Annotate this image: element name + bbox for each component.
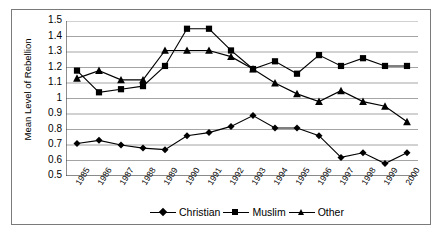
x-tick-label: 1990 — [184, 166, 201, 187]
chart-legend: ChristianMuslimOther — [150, 204, 347, 220]
legend-item-other: Other — [289, 206, 347, 218]
legend-marker-square-icon — [223, 206, 249, 218]
x-tick-label: 1991 — [206, 166, 223, 187]
legend-item-muslim: Muslim — [223, 206, 288, 218]
legend-item-christian: Christian — [150, 206, 223, 218]
x-tick-label: 1987 — [118, 166, 135, 187]
x-tick-label: 1996 — [316, 166, 333, 187]
x-tick-label: 1995 — [294, 166, 311, 187]
legend-label: Christian — [176, 206, 223, 218]
x-tick-label: 1988 — [140, 166, 157, 187]
x-tick-label: 2000 — [404, 166, 421, 187]
legend-label: Other — [315, 206, 347, 218]
x-tick-label: 1986 — [96, 166, 113, 187]
legend-marker-diamond-icon — [150, 206, 176, 218]
x-tick-label: 1994 — [272, 166, 289, 187]
chart-figure: Mean Level of Rebellion 1.51.41.31.21.11… — [0, 0, 446, 243]
x-tick-label: 1989 — [162, 166, 179, 187]
legend-label: Muslim — [249, 206, 288, 218]
x-tick-label: 1999 — [382, 166, 399, 187]
x-tick-label: 1992 — [228, 166, 245, 187]
x-tick-label: 1998 — [360, 166, 377, 187]
x-tick-label: 1997 — [338, 166, 355, 187]
x-tick-label: 1993 — [250, 166, 267, 187]
legend-marker-triangle-icon — [289, 206, 315, 218]
x-tick-label: 1985 — [74, 166, 91, 187]
